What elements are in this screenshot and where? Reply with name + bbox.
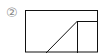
outer-rectangle [26, 11, 98, 53]
diagram-canvas [0, 0, 103, 53]
diagonal-line [46, 21, 78, 53]
